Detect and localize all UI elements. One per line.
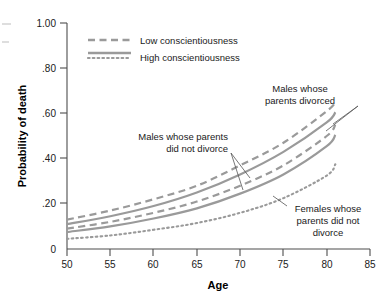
chart-svg: 1.00 .80 .60 .40 .20 0 50 55 60 65 70 75…	[0, 0, 392, 307]
y-axis-title: Probability of death	[16, 84, 28, 187]
annotation-males-divorced-line1: Males whose	[272, 83, 327, 94]
x-axis	[67, 249, 370, 256]
annotation-females-not-divorced-line1: Females whose	[295, 203, 362, 214]
x-tick-label-80: 80	[321, 259, 333, 270]
x-tick-label-85: 85	[364, 259, 376, 270]
y-tick-label-100: 1.00	[37, 18, 57, 29]
chart-figure: 1.00 .80 .60 .40 .20 0 50 55 60 65 70 75…	[0, 0, 392, 307]
x-tick-label-75: 75	[277, 259, 289, 270]
annotation-males-divorced-line2: parents divorced	[265, 95, 335, 106]
annotation-females-not-divorced: Females whose parents did not divorce	[273, 196, 361, 238]
annotation-males-not-divorced: Males whose parents did not divorce	[138, 131, 250, 190]
annotation-males-not-divorced-line1: Males whose parents	[138, 131, 228, 142]
y-tick-label-080: .80	[42, 63, 56, 74]
annotation-females-not-divorced-line2: parents did not	[297, 215, 360, 226]
x-tick-label-70: 70	[234, 259, 246, 270]
legend: Low conscientiousness High conscientious…	[88, 35, 240, 63]
y-tick-label-040: .40	[42, 153, 56, 164]
curve-males-divorced-low-conscientiousness	[67, 102, 335, 220]
y-axis	[60, 23, 67, 249]
annotation-females-not-divorced-line3: divorce	[313, 227, 344, 238]
legend-label-low-conscientiousness: Low conscientiousness	[140, 35, 238, 46]
x-tick-label-65: 65	[191, 259, 203, 270]
y-tick-label-0: 0	[50, 244, 56, 255]
annotation-males-not-divorced-line2: did not divorce	[166, 143, 228, 154]
legend-label-high-conscientiousness: High conscientiousness	[140, 52, 240, 63]
x-tick-label-60: 60	[147, 259, 159, 270]
x-axis-title: Age	[208, 279, 229, 291]
x-tick-label-50: 50	[61, 259, 73, 270]
curves-group	[67, 102, 335, 239]
y-tick-label-060: .60	[42, 108, 56, 119]
y-tick-label-020: .20	[42, 198, 56, 209]
x-tick-label-55: 55	[104, 259, 116, 270]
